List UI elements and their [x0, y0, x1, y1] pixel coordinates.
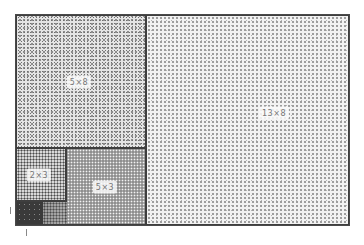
tile-2x3: 2×3	[16, 148, 66, 201]
left-tick-mark	[10, 207, 11, 214]
tiling-frame: 5×8 13×8 2×3 5×3	[15, 14, 350, 226]
tile-5x3: 5×3	[66, 148, 146, 225]
dark-corner-texture	[17, 202, 43, 224]
bottom-tick-mark	[26, 229, 27, 236]
tile-label-5x8: 5×8	[67, 76, 91, 89]
tile-dark-corner	[16, 201, 66, 225]
tile-label-5x3: 5×3	[93, 181, 117, 194]
tile-label-2x3: 2×3	[27, 169, 51, 182]
dark-corner-texture-right	[43, 202, 67, 224]
tile-13x8: 13×8	[146, 15, 349, 225]
tile-label-13x8: 13×8	[259, 107, 289, 120]
tile-5x8: 5×8	[16, 15, 146, 148]
